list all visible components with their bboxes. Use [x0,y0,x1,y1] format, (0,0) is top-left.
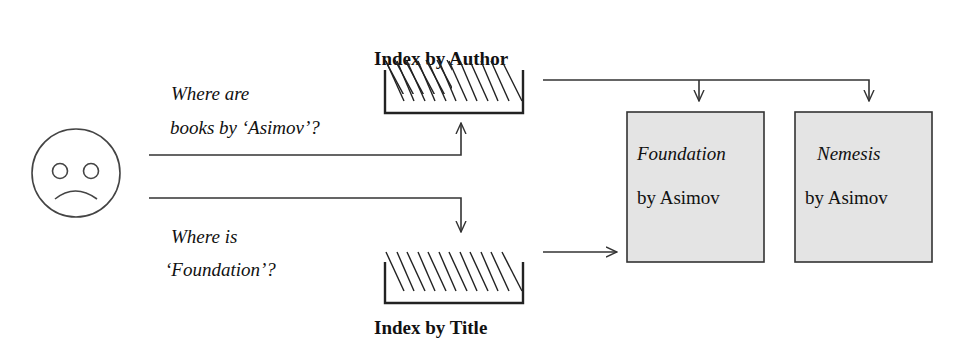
index-title-hatch [386,252,522,291]
arrow-author-index-to-books [543,80,869,101]
index-title-label: Index by Title [374,317,487,338]
book-title: Nemesis [816,143,880,164]
index-diagram: Index by Author [0,0,966,360]
index-author-tray [385,70,523,113]
book-nemesis: Nemesis by Asimov [795,112,932,262]
book-author: by Asimov [637,187,720,208]
sad-face-icon [32,129,120,217]
index-title-tray [385,262,523,303]
query-author-line1: Where are [171,83,249,104]
book-foundation: Foundation by Asimov [627,112,764,262]
query-title-line2: ‘Foundation’? [165,259,276,280]
book-author: by Asimov [805,187,888,208]
query-author-line2: books by ‘Asimov’? [170,117,320,138]
book-title: Foundation [636,143,726,164]
query-title-line1: Where is [171,226,237,247]
